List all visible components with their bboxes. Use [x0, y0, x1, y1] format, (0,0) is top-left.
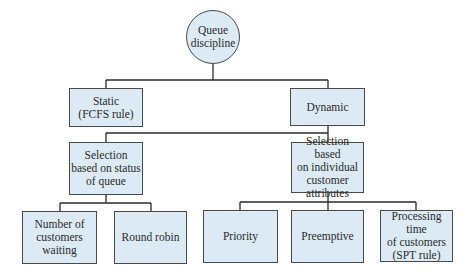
node-round-robin: Round robin — [114, 211, 187, 264]
node-label: Number of customers waiting — [34, 218, 84, 257]
node-processing-time: Processing time of customers (SPT rule) — [380, 210, 453, 262]
node-label: Selection based on individual customer a… — [292, 135, 363, 200]
node-queue-discipline: Queue discipline — [186, 10, 240, 64]
node-static: Static (FCFS rule) — [69, 88, 143, 127]
node-label: Static (FCFS rule) — [78, 95, 133, 121]
node-selection-individual: Selection based on individual customer a… — [291, 142, 364, 193]
node-preemptive: Preemptive — [291, 210, 364, 263]
node-label: Round robin — [122, 231, 180, 244]
node-selection-status: Selection based on status of queue — [69, 142, 143, 195]
node-priority: Priority — [203, 210, 278, 263]
node-number-waiting: Number of customers waiting — [22, 211, 97, 264]
node-label: Preemptive — [301, 230, 353, 243]
node-label: Dynamic — [306, 101, 348, 114]
node-label: Queue discipline — [191, 24, 236, 50]
node-label: Selection based on status of queue — [71, 149, 141, 188]
node-label: Priority — [223, 230, 258, 243]
node-dynamic: Dynamic — [290, 88, 365, 126]
node-label: Processing time of customers (SPT rule) — [381, 210, 452, 262]
